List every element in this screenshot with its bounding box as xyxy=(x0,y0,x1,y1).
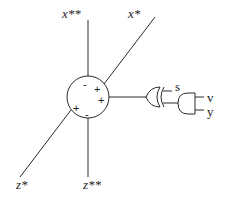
sign-minus-top: - xyxy=(83,78,87,90)
label-input-y: y xyxy=(207,104,214,119)
and-gate xyxy=(178,93,195,114)
diagram-canvas: - + + + - x** x* z* z** s v y xyxy=(0,0,231,202)
sign-minus-bottom: - xyxy=(85,108,89,120)
label-x-double-star: x** xyxy=(61,6,81,21)
label-z-double-star: z** xyxy=(82,177,102,192)
label-input-s: s xyxy=(175,79,180,94)
axis-z-star-line xyxy=(20,110,71,177)
xor-gate xyxy=(146,87,164,107)
sign-plus-right: + xyxy=(98,94,104,106)
sign-plus-left: + xyxy=(73,102,79,114)
label-x-star: x* xyxy=(127,6,141,21)
axis-x-star-line xyxy=(104,17,155,84)
label-z-star: z* xyxy=(15,177,28,192)
label-input-v: v xyxy=(207,90,214,105)
